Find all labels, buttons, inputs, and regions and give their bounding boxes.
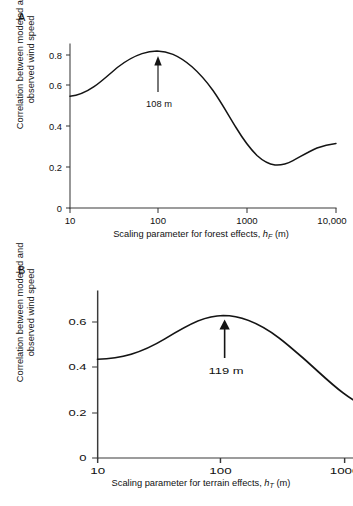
- panel-b-x-axis-label-symbol: h: [264, 478, 269, 488]
- panel-b-x-axis-label-prefix: Scaling parameter for terrain effects,: [112, 478, 265, 488]
- panel-a-y-tick-label-3: 0.6: [49, 81, 62, 91]
- panel-a-annotation-label: 108 m: [146, 99, 172, 109]
- panel-a-y-tick-label-4: 0.8: [49, 51, 62, 61]
- panel-b-y-tick-label-1: 0.2: [68, 408, 86, 418]
- panel-b-annotation: 119 m: [209, 320, 244, 376]
- panel-b: B Correlation between modeled and observ…: [0, 253, 353, 506]
- panel-a-x-tick-label-3: 10,000: [317, 215, 346, 226]
- panel-a-annotation: 108 m: [146, 56, 172, 109]
- panel-a-y-tick-label-1: 0.2: [49, 163, 62, 173]
- panel-b-y-tick-label-2: 0.4: [68, 362, 86, 372]
- panel-a-x-axis-label-subscript: F: [268, 233, 272, 241]
- panel-a-x-axis-label-suffix: (m): [272, 229, 289, 239]
- panel-a-x-tick-label-2: 1000: [236, 215, 257, 226]
- panel-b-annotation-arrow-head: [219, 320, 229, 330]
- panel-a: A Correlation between modeled and observ…: [0, 0, 353, 253]
- panel-a-y-ticks: [66, 55, 70, 208]
- panel-b-annotation-label: 119 m: [209, 366, 244, 376]
- panel-a-x-tick-label-1: 100: [150, 215, 166, 226]
- panel-b-x-tick-label-0: 10: [90, 465, 105, 476]
- panel-b-x-ticks: [98, 458, 353, 463]
- panel-b-y-tick-label-0: 0: [79, 453, 86, 463]
- panel-a-y-tick-label-0: 0: [57, 204, 62, 214]
- panel-b-x-tick-label-1: 100: [209, 465, 232, 476]
- panel-b-x-tick-label-2: 1000: [330, 465, 353, 476]
- panel-b-x-axis-label-subscript: T: [270, 482, 274, 490]
- panel-b-plot: 0 0.2 0.4 0.6 10 100 1000 10,000: [0, 253, 353, 506]
- panel-b-y-tick-label-3: 0.6: [68, 317, 86, 327]
- panel-b-y-ticks: [92, 322, 98, 458]
- panel-a-plot: 0 0.2 0.4 0.6 0.8 10 100 1000 10,000 1: [0, 0, 353, 253]
- panel-a-x-axis-label: Scaling parameter for forest effects, hF…: [56, 229, 346, 239]
- panel-a-x-axis-label-prefix: Scaling parameter for forest effects,: [113, 229, 263, 239]
- panel-b-x-axis-label-suffix: (m): [274, 478, 291, 488]
- panel-a-y-tick-label-2: 0.4: [49, 122, 62, 132]
- panel-a-data-curve: [70, 51, 336, 165]
- panel-a-x-tick-label-0: 10: [65, 215, 76, 226]
- panel-a-annotation-arrow-head: [154, 56, 161, 66]
- figure-container: A Correlation between modeled and observ…: [0, 0, 353, 506]
- panel-b-x-axis-label: Scaling parameter for terrain effects, h…: [56, 478, 346, 488]
- panel-a-x-ticks: [70, 208, 336, 213]
